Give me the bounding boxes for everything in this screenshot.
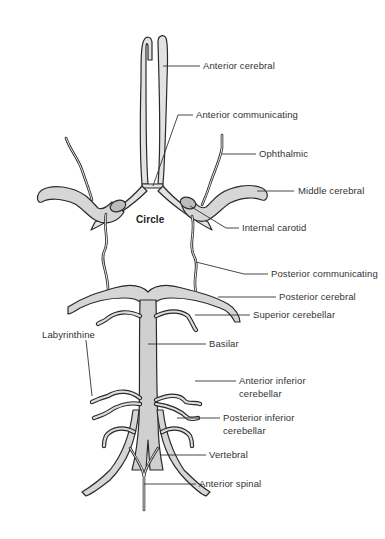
label-internal-carotid: Internal carotid xyxy=(242,222,306,233)
label-anterior-communicating: Anterior communicating xyxy=(196,109,298,120)
anterior-communicating xyxy=(142,184,163,188)
label-basilar: Basilar xyxy=(209,338,239,349)
label-circle: Circle xyxy=(136,214,164,225)
label-posterior-cerebral: Posterior cerebral xyxy=(279,291,356,302)
basilar xyxy=(132,300,163,470)
label-labyrinthine: Labyrinthine xyxy=(42,329,95,340)
leader-labyrinthine xyxy=(86,340,92,396)
label-posterior-communicating: Posterior communicating xyxy=(271,268,378,279)
label-middle-cerebral: Middle cerebral xyxy=(298,185,364,196)
label-vertebral: Vertebral xyxy=(209,449,248,460)
label-posterior-inferior-cerebellar-2: cerebellar xyxy=(223,425,266,436)
anterior-cerebral-left xyxy=(140,37,152,184)
label-anterior-cerebral: Anterior cerebral xyxy=(203,60,275,71)
posterior-communicating-right xyxy=(192,216,197,292)
label-ophthalmic: Ophthalmic xyxy=(259,148,308,159)
label-anterior-inferior-cerebellar-1: Anterior inferior xyxy=(239,375,306,386)
anterior-cerebral-right xyxy=(158,36,168,184)
label-anterior-spinal: Anterior spinal xyxy=(199,478,261,489)
leader-posterior-communicating xyxy=(196,262,268,274)
label-anterior-inferior-cerebellar-2: cerebellar xyxy=(239,388,282,399)
vertebral-left xyxy=(82,410,139,496)
label-superior-cerebellar: Superior cerebellar xyxy=(253,309,335,320)
label-posterior-inferior-cerebellar-1: Posterior inferior xyxy=(223,412,295,423)
